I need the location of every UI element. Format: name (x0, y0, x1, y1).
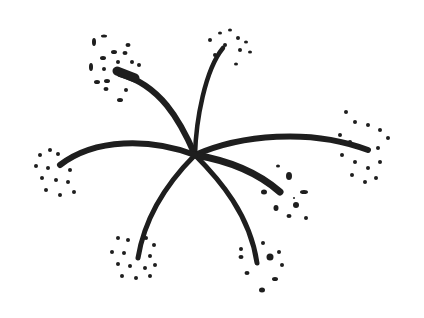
umbel-flower-drawing (0, 0, 424, 318)
